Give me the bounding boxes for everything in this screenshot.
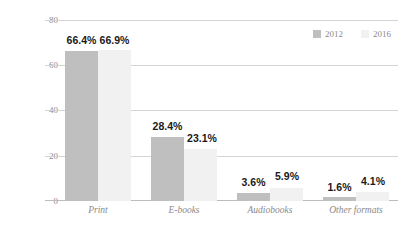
- legend-swatch-icon-2016: [361, 30, 369, 38]
- bar-label-audiobooks-2012: 3.6%: [242, 176, 266, 188]
- bar-ebooks-2012[interactable]: [151, 137, 184, 201]
- legend-item-2016[interactable]: 2016: [361, 29, 391, 39]
- bar-label-ebooks-2012: 28.4%: [153, 120, 183, 132]
- bar-label-audiobooks-2016: 5.9%: [275, 170, 299, 182]
- bar-chart: 80 60 40 20 0 66.4% 66.9% 28.4% 23.1% 3.…: [0, 0, 410, 247]
- bar-label-ebooks-2016: 23.1%: [187, 132, 217, 144]
- legend-label-2016: 2016: [373, 29, 391, 39]
- bar-ebooks-2016[interactable]: [184, 149, 217, 201]
- bar-group-other-formats: 1.6% 4.1%: [323, 20, 389, 201]
- bar-label-other-formats-2016: 4.1%: [361, 175, 385, 187]
- bar-group-ebooks: 28.4% 23.1%: [151, 20, 217, 201]
- x-axis-label-print: Print: [88, 205, 108, 215]
- bar-group-audiobooks: 3.6% 5.9%: [237, 20, 303, 201]
- x-axis-label-audiobooks: Audiobooks: [248, 205, 293, 215]
- bar-other-formats-2012[interactable]: [323, 197, 356, 201]
- bar-other-formats-2016[interactable]: [356, 192, 389, 201]
- bar-label-other-formats-2012: 1.6%: [328, 181, 352, 193]
- legend-label-2012: 2012: [325, 29, 343, 39]
- bar-label-print-2016: 66.9%: [100, 34, 130, 46]
- x-axis-label-ebooks: E-books: [168, 205, 199, 215]
- legend-item-2012[interactable]: 2012: [313, 29, 343, 39]
- legend-swatch-icon-2012: [313, 30, 321, 38]
- bar-print-2016[interactable]: [98, 50, 131, 201]
- bar-print-2012[interactable]: [65, 51, 98, 201]
- x-axis-label-other-formats: Other formats: [329, 205, 383, 215]
- bar-label-print-2012: 66.4%: [67, 34, 97, 46]
- bar-audiobooks-2016[interactable]: [270, 188, 303, 201]
- chart-legend: 2012 2016: [313, 29, 391, 39]
- bar-audiobooks-2012[interactable]: [237, 193, 270, 201]
- bar-group-print: 66.4% 66.9%: [65, 20, 131, 201]
- plot-area: 66.4% 66.9% 28.4% 23.1% 3.6% 5.9% 1.6% 4…: [45, 20, 398, 201]
